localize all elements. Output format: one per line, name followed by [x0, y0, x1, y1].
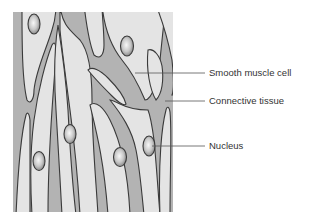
nucleus [114, 148, 127, 167]
nucleus [64, 125, 76, 144]
label-smooth-muscle-cell: Smooth muscle cell [209, 68, 291, 78]
label-nucleus: Nucleus [209, 141, 243, 151]
nucleus [33, 152, 45, 171]
nucleus [28, 14, 40, 34]
label-connective-tissue: Connective tissue [209, 96, 284, 106]
nucleus [121, 36, 134, 56]
smooth-muscle-diagram [0, 0, 309, 221]
